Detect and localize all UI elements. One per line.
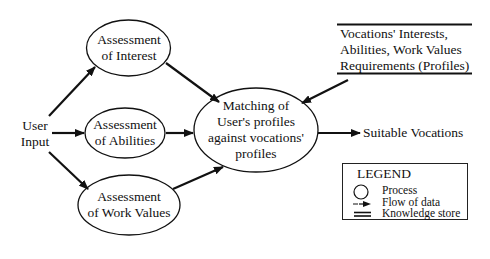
matching-label: Matching of User's profiles against voca… [208, 98, 304, 162]
interest-line2: of Interest [97, 48, 161, 64]
legend: LEGEND Process Flow of data Knowledge st… [342, 163, 468, 220]
matching-line1: Matching of [208, 98, 304, 114]
work-values-line2: of Work Values [87, 205, 170, 221]
user-input-label: User Input [20, 118, 50, 150]
knowledge-store-line3: Requirements (Profiles) [340, 58, 469, 74]
matching-line2: User's profiles [208, 114, 304, 130]
arrow-input-to-interest [49, 67, 95, 116]
legend-process-label: Process [382, 184, 417, 196]
matching-line4: profiles [208, 146, 304, 162]
knowledge-store-line1: Vocations' Interests, [340, 26, 469, 42]
legend-store-label: Knowledge store [382, 207, 460, 219]
user-input-line1: User [20, 118, 50, 134]
abilities-label: Assessment of Abilities [93, 117, 157, 149]
abilities-line2: of Abilities [93, 133, 157, 149]
knowledge-store-label: Vocations' Interests, Abilities, Work Va… [340, 26, 469, 74]
suitable-vocations-label: Suitable Vocations [363, 125, 463, 141]
abilities-line1: Assessment [93, 117, 157, 133]
arrow-interest-to-matching [166, 63, 219, 102]
arrow-work-values-to-matching [173, 167, 223, 189]
process-symbol-icon [354, 185, 368, 199]
matching-line3: against vocations' [208, 130, 304, 146]
arrow-store-to-matching [302, 80, 348, 103]
interest-label: Assessment of Interest [97, 32, 161, 64]
knowledge-store-line2: Abilities, Work Values [340, 42, 469, 58]
work-values-line1: Assessment [87, 189, 170, 205]
user-input-line2: Input [20, 134, 50, 150]
arrow-input-to-work-values [49, 152, 88, 189]
work-values-label: Assessment of Work Values [87, 189, 170, 221]
interest-line1: Assessment [97, 32, 161, 48]
